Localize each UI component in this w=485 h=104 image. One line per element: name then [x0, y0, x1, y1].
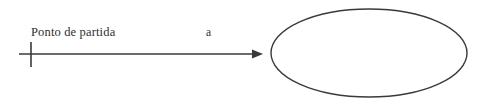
transition-arrow-head: [252, 50, 263, 59]
diagram-canvas: Ponto de partida a: [0, 0, 485, 104]
arrow-group: [19, 50, 263, 59]
edge-label-a: a: [206, 27, 211, 39]
state-ellipse: [271, 9, 467, 97]
start-point-label: Ponto de partida: [31, 26, 115, 39]
diagram-vector-layer: [0, 0, 485, 104]
